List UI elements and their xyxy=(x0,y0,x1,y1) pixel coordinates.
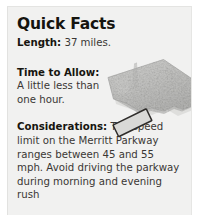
spacer-two xyxy=(17,106,182,120)
fact-considerations: Considerations: The speed limit on the M… xyxy=(17,120,182,202)
fact-time-to-allow-value: A little less than one hour. xyxy=(17,79,112,106)
fact-length-value: 37 miles. xyxy=(61,37,111,48)
fact-length-label: Length: xyxy=(17,37,61,48)
fact-considerations-value: The speed limit on the Merritt Parkway r… xyxy=(17,121,179,200)
spacer-one xyxy=(17,50,182,66)
quick-facts-panel: Quick Facts Length: 37 miles. Time to Al… xyxy=(7,6,192,215)
fact-considerations-label: Considerations: xyxy=(17,121,107,132)
fact-length: Length: 37 miles. xyxy=(17,36,182,50)
quick-facts-content: Quick Facts Length: 37 miles. Time to Al… xyxy=(8,7,191,202)
page-title: Quick Facts xyxy=(17,16,182,33)
fact-time-to-allow: Time to Allow:A little less than one hou… xyxy=(17,66,182,107)
fact-time-to-allow-label: Time to Allow: xyxy=(17,66,182,80)
quick-facts-screenshot: Quick Facts Length: 37 miles. Time to Al… xyxy=(0,0,199,215)
